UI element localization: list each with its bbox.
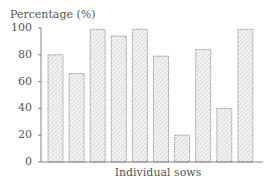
- bar-sow-6: [154, 56, 169, 162]
- bar-sow-8: [196, 49, 211, 162]
- y-tick-marks: [38, 28, 41, 162]
- bar-sow-1: [48, 55, 63, 162]
- bars-group: [48, 29, 253, 162]
- bar-sow-10: [238, 29, 253, 162]
- bar-sow-4: [111, 36, 126, 162]
- plot-area: [0, 0, 277, 186]
- bar-sow-7: [175, 135, 190, 162]
- bar-sow-2: [69, 74, 84, 162]
- bar-sow-5: [132, 29, 147, 162]
- bar-sow-3: [90, 29, 105, 162]
- bar-sow-9: [217, 108, 232, 162]
- bar-chart: Percentage (%) 020406080100 Individual s…: [0, 0, 277, 186]
- x-axis-title: Individual sows: [0, 166, 277, 179]
